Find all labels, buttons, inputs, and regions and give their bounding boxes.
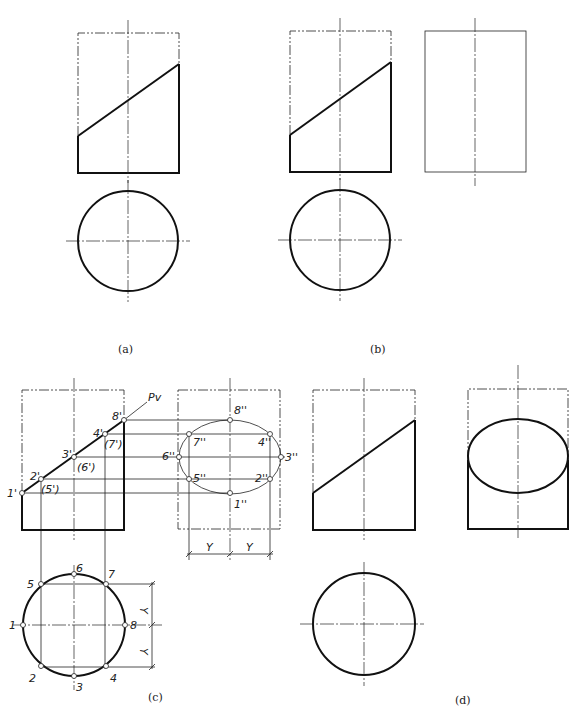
label-5: 5 <box>27 578 34 591</box>
label-8pp: 8'' <box>234 404 247 417</box>
label-3pp: 3'' <box>285 451 298 464</box>
point-2 <box>39 664 44 669</box>
point-8p <box>122 418 127 423</box>
label-5p: (5') <box>41 483 60 496</box>
front-view-b <box>290 18 391 180</box>
cutting-plane-trace <box>124 402 147 420</box>
label-3: 3 <box>76 681 83 694</box>
cylinder-outline <box>290 62 391 172</box>
caption-a: (a) <box>118 343 133 356</box>
front-view-c: Pv 1' 2' (5') 3' (6') 4' (7') 8' <box>7 378 162 540</box>
caption-d: (d) <box>455 694 471 707</box>
label-4pp: 4'' <box>258 436 271 449</box>
side-view-c: Y Y 8'' 7'' 4'' 6'' 3'' 5'' 2'' 1'' <box>162 378 298 560</box>
dim-y-lower: Y <box>137 648 150 656</box>
top-view-c: Y Y 1 2 3 4 5 6 7 8 <box>9 562 162 694</box>
point-7pp <box>187 432 192 437</box>
label-2: 2 <box>29 672 36 685</box>
dim-y-right: Y <box>246 541 254 554</box>
label-6p: (6') <box>77 461 96 474</box>
label-8: 8 <box>130 619 137 632</box>
label-7pp: 7'' <box>193 436 206 449</box>
caption-b: (b) <box>370 343 386 356</box>
top-view-d <box>300 562 424 686</box>
point-1 <box>21 623 26 628</box>
label-2p: 2' <box>30 470 40 483</box>
side-outline <box>425 31 526 172</box>
front-view-d <box>313 378 415 540</box>
label-7p: (7') <box>104 438 123 451</box>
subfigure-d: (d) <box>300 365 568 707</box>
label-1pp: 1'' <box>234 498 247 511</box>
point-8pp <box>228 418 233 423</box>
point-2pp <box>268 477 273 482</box>
dim-y-upper: Y <box>137 607 150 615</box>
dim-y-left: Y <box>206 541 214 554</box>
cylinder-outline <box>78 64 179 173</box>
subfigure-c: Pv 1' 2' (5') 3' (6') 4' (7') 8' Y Y <box>7 378 298 704</box>
label-7: 7 <box>108 568 115 581</box>
point-5pp <box>187 477 192 482</box>
drawing-canvas: (a) (b) <box>0 0 582 716</box>
label-6pp: 6'' <box>162 450 175 463</box>
cut-line <box>290 62 391 135</box>
label-2pp: 2'' <box>255 472 268 485</box>
removed-part-outline <box>290 31 391 135</box>
label-8p: 8' <box>112 410 122 423</box>
label-6: 6 <box>76 562 83 575</box>
label-3p: 3' <box>62 448 72 461</box>
point-7 <box>104 582 109 587</box>
label-5pp: 5'' <box>193 472 206 485</box>
subfigure-a: (a) <box>66 20 190 356</box>
subfigure-b: (b) <box>278 18 526 356</box>
label-4p: 4' <box>93 427 103 440</box>
point-4p <box>103 432 108 437</box>
side-outline <box>178 390 280 529</box>
label-4: 4 <box>110 672 117 685</box>
label-pv: Pv <box>148 391 162 404</box>
point-8 <box>123 623 128 628</box>
point-5 <box>39 582 44 587</box>
front-view-a <box>78 20 179 183</box>
point-3p <box>72 455 77 460</box>
removed-part-outline <box>78 33 179 136</box>
point-3pp <box>279 455 284 460</box>
side-view-b <box>425 18 526 186</box>
cut-line <box>78 64 179 136</box>
point-3 <box>72 674 77 679</box>
label-1: 1 <box>9 619 16 632</box>
top-view-a <box>66 180 190 302</box>
point-6pp <box>177 455 182 460</box>
side-view-d <box>468 365 568 538</box>
caption-c: (c) <box>148 691 163 704</box>
top-view-b <box>278 178 402 301</box>
point-1p <box>20 491 25 496</box>
label-1p: 1' <box>7 487 17 500</box>
point-1pp <box>228 491 233 496</box>
point-4 <box>104 664 109 669</box>
